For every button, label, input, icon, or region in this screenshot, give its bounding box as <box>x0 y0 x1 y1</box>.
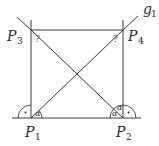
svg-text:1: 1 <box>35 132 41 142</box>
label-p1: P 1 <box>24 124 41 142</box>
label-g1: g 1 <box>143 1 157 19</box>
right-angle-arc-p1 <box>18 105 31 118</box>
extension-p3 <box>17 17 31 30</box>
svg-text:P: P <box>6 28 17 44</box>
right-angle-dot-p1 <box>25 112 27 114</box>
svg-text:P: P <box>127 28 138 44</box>
alpha-label-p2-upper: α <box>117 103 123 112</box>
svg-text:P: P <box>115 124 126 140</box>
svg-text:4: 4 <box>138 36 144 46</box>
label-p4: P 4 <box>127 28 144 46</box>
svg-text:P: P <box>24 124 35 140</box>
svg-text:3: 3 <box>17 36 23 46</box>
unknown-angle-p3: ? <box>35 34 40 44</box>
unknown-angle-p4: ? <box>113 34 118 44</box>
right-angle-arc-p2 <box>123 105 136 118</box>
alpha-label-p1: α <box>35 109 41 118</box>
label-p2: P 2 <box>115 124 132 142</box>
svg-text:2: 2 <box>126 132 132 142</box>
label-p3: P 3 <box>6 28 23 46</box>
svg-text:1: 1 <box>151 9 157 19</box>
right-angle-dot-p2 <box>128 112 130 114</box>
geometry-diagram: α α α ? ? P 3 P 4 P 1 P 2 g 1 <box>0 0 159 146</box>
